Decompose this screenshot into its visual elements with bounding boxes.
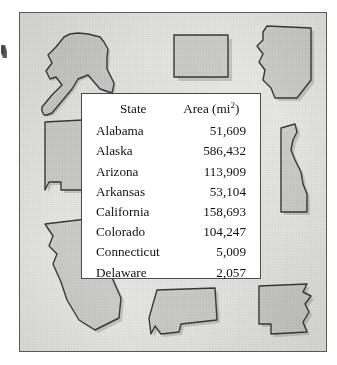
table-row: Delaware 2,057 (96, 266, 246, 279)
cell-state-area: 51,609 (174, 124, 246, 144)
map-shape-connecticut (144, 275, 228, 345)
cell-state-area: 113,909 (174, 165, 246, 185)
cell-state-name: Colorado (96, 225, 174, 245)
column-header-area: Area (mi2) (174, 102, 246, 124)
cell-state-name: Arizona (96, 165, 174, 185)
table-row: Colorado 104,247 (96, 225, 246, 245)
map-shape-arkansas (248, 271, 326, 349)
state-area-table-card: State Area (mi2) Alabama 51,609 Alaska 5… (81, 93, 261, 279)
cell-state-name: Connecticut (96, 245, 174, 265)
cell-state-area: 104,247 (174, 225, 246, 245)
table-row: Alaska 586,432 (96, 144, 246, 164)
cell-state-name: Alabama (96, 124, 174, 144)
table-row: California 158,693 (96, 205, 246, 225)
figure-frame: State Area (mi2) Alabama 51,609 Alaska 5… (19, 12, 327, 352)
table-row: Connecticut 5,009 (96, 245, 246, 265)
map-shape-colorado (154, 21, 232, 83)
cell-state-area: 158,693 (174, 205, 246, 225)
table-body: Alabama 51,609 Alaska 586,432 Arizona 11… (96, 124, 246, 279)
cell-state-name: Arkansas (96, 185, 174, 205)
state-area-table: State Area (mi2) Alabama 51,609 Alaska 5… (96, 102, 246, 279)
scan-artifact (1, 45, 7, 58)
cell-state-name: Delaware (96, 266, 174, 279)
cell-state-area: 53,104 (174, 185, 246, 205)
column-header-area-text: Area (mi (183, 101, 230, 116)
map-shape-delaware (268, 113, 318, 233)
cell-state-area: 2,057 (174, 266, 246, 279)
column-header-state: State (96, 102, 174, 124)
table-row: Alabama 51,609 (96, 124, 246, 144)
cell-state-area: 5,009 (174, 245, 246, 265)
cell-state-area: 586,432 (174, 144, 246, 164)
table-row: Arkansas 53,104 (96, 185, 246, 205)
table-row: Arizona 113,909 (96, 165, 246, 185)
cell-state-name: Alaska (96, 144, 174, 164)
table-header: State Area (mi2) (96, 102, 246, 124)
column-header-area-close: ) (235, 101, 239, 116)
table-header-row: State Area (mi2) (96, 102, 246, 124)
cell-state-name: California (96, 205, 174, 225)
